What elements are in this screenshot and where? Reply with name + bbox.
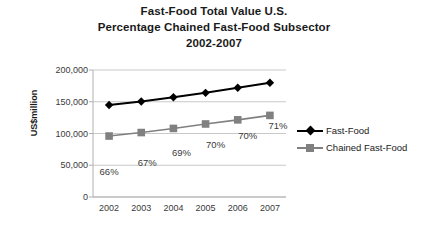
percentage-label: 70% — [238, 130, 257, 141]
percentage-label: 69% — [172, 147, 191, 158]
y-axis-tick-label: 200,000 — [36, 65, 88, 75]
percentage-label: 67% — [138, 157, 157, 168]
percentage-label: 70% — [206, 139, 225, 150]
chart-figure: Fast-Food Total Value U.S. Percentage Ch… — [0, 0, 428, 232]
y-axis-tick-label: 100,000 — [36, 129, 88, 139]
y-axis-tick-labels: 050,000100,000150,000200,000 — [32, 0, 88, 232]
y-axis-tick-label: 0 — [36, 192, 88, 202]
y-axis-tick-label: 150,000 — [36, 97, 88, 107]
percentage-label: 71% — [268, 120, 287, 131]
legend-marker-diamond-icon — [297, 125, 323, 137]
chart-legend: Fast-Food Chained Fast-Food — [297, 122, 425, 156]
y-axis-tick-label: 50,000 — [36, 160, 88, 170]
legend-label-fast-food: Fast-Food — [326, 125, 369, 136]
percentage-label: 66% — [100, 166, 119, 177]
legend-marker-square-icon — [297, 142, 323, 154]
legend-item-chained-fast-food[interactable]: Chained Fast-Food — [297, 139, 425, 156]
legend-item-fast-food[interactable]: Fast-Food — [297, 122, 425, 139]
legend-label-chained-fast-food: Chained Fast-Food — [326, 142, 407, 153]
x-axis-tick-label: 2007 — [250, 203, 290, 213]
